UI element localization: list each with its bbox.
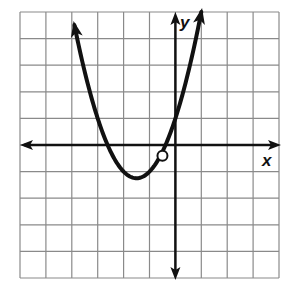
coordinate-graph: x y [0,0,288,292]
parabola-curve [74,12,201,178]
y-axis-label: y [179,13,191,32]
open-circle-point [157,151,167,161]
axes [20,12,281,280]
x-axis-label: x [261,151,273,170]
